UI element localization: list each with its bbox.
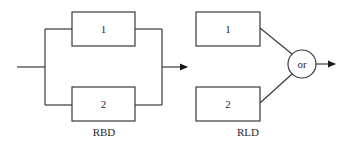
rld-caption: RLD	[237, 126, 259, 138]
rld-connector-1	[260, 28, 292, 54]
rld-or-gate: or	[288, 50, 316, 78]
rld-block-1-label: 1	[225, 23, 231, 35]
rbd-block-1-label: 1	[101, 23, 107, 35]
rbd-block-2: 2	[72, 87, 135, 121]
rbd-block-1: 1	[72, 12, 135, 46]
rbd-diagram: 1 2 RBD	[17, 12, 187, 138]
rbd-block-2-label: 2	[101, 98, 107, 110]
rld-block-2: 2	[196, 87, 260, 121]
rld-block-1: 1	[196, 12, 260, 46]
rbd-caption: RBD	[93, 126, 116, 138]
diagram-canvas: 1 2 RBD 1 2 or	[0, 0, 350, 147]
rld-block-2-label: 2	[225, 98, 231, 110]
rld-or-gate-label: or	[297, 58, 307, 70]
rld-connector-2	[260, 74, 292, 103]
rld-diagram: 1 2 or RLD	[196, 12, 335, 138]
